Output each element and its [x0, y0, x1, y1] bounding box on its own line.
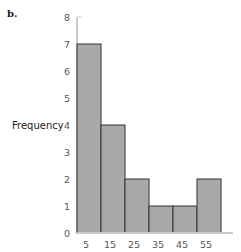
- x-tick-label: 5: [83, 239, 89, 250]
- y-tick-label: 1: [64, 201, 70, 212]
- x-tick-label: 55: [200, 239, 212, 250]
- histogram-bar: [149, 206, 173, 233]
- histogram-bar: [197, 179, 221, 233]
- histogram-bar: [125, 179, 149, 233]
- histogram-bar: [77, 44, 101, 233]
- y-tick-label: 8: [64, 12, 70, 23]
- y-tick-label: 6: [64, 66, 70, 77]
- y-tick-label: 4: [64, 120, 70, 131]
- x-tick-label: 25: [128, 239, 140, 250]
- y-tick-label: 0: [64, 228, 70, 239]
- y-tick-label: 2: [64, 174, 70, 185]
- histogram-bar: [173, 206, 197, 233]
- histogram-bar: [101, 125, 125, 233]
- x-tick-label: 35: [152, 239, 164, 250]
- y-tick-label: 7: [64, 39, 70, 50]
- x-tick-label: 15: [104, 239, 116, 250]
- histogram-chart: 01234567851525354555: [0, 0, 241, 252]
- y-tick-label: 5: [64, 93, 70, 104]
- x-tick-label: 45: [176, 239, 188, 250]
- y-tick-label: 3: [64, 147, 70, 158]
